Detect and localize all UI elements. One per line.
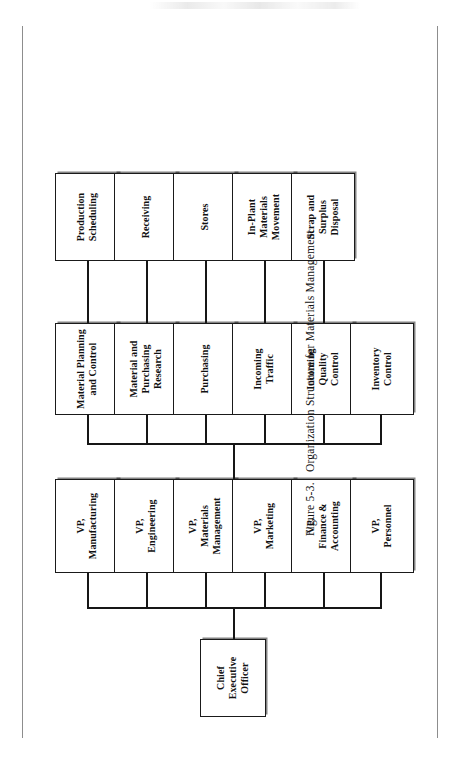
connector-in-plant-movement [264, 261, 266, 323]
node-label-line: Movement [270, 193, 282, 239]
node-stores[interactable]: Stores [173, 173, 237, 261]
connector-inventory-control [380, 415, 382, 445]
node-label-line: Accounting [329, 501, 341, 551]
node-vp-engineering[interactable]: VP, Engineering [114, 479, 178, 573]
node-material-and-purchasing-research[interactable]: Material and Purchasing Research [114, 323, 178, 415]
node-label-line: Manufacturing [87, 492, 99, 558]
connector-receiving [146, 261, 148, 323]
connector-purchasing [205, 415, 207, 445]
figure-number: Figure 5-3. [304, 482, 316, 536]
connector-production-scheduling [87, 261, 89, 323]
node-in-plant-materials-movement[interactable]: In-Plant Materials Movement [232, 173, 296, 261]
node-label-line: Engineering [146, 499, 158, 552]
node-label-line: Incoming [251, 348, 263, 389]
node-production-scheduling[interactable]: Production Scheduling [55, 173, 119, 261]
node-label-line: Receiving [139, 195, 151, 238]
connector-material-planning [87, 415, 89, 445]
connector-vp-trunk [87, 607, 381, 609]
connector-vp-personnel [380, 573, 382, 609]
connector-ceo-stub [233, 607, 235, 639]
node-label-line: Executive [226, 656, 238, 699]
node-material-planning-and-control[interactable]: Material Planning and Control [55, 323, 119, 415]
node-scrap-and-surplus-disposal[interactable]: Scrap and Surplus Disposal [291, 173, 355, 261]
node-label-line: Stores [198, 203, 210, 230]
node-incoming-traffic[interactable]: Incoming Traffic [232, 323, 296, 415]
scan-artifact-header [150, 2, 360, 9]
node-label-line: VP, [74, 492, 86, 558]
node-label-line: Control [329, 348, 341, 389]
node-label-line: Chief [214, 656, 226, 699]
node-label-line: VP, [186, 497, 198, 554]
node-label-line: In-Plant [245, 193, 257, 239]
node-label-line: VP, [369, 504, 381, 547]
node-vp-manufacturing[interactable]: VP, Manufacturing [55, 479, 119, 573]
node-label-line: Personnel [382, 504, 394, 547]
node-label-line: Control [382, 347, 394, 390]
node-incoming-quality-control[interactable]: Incoming Quality Control [291, 323, 355, 415]
figure-caption: Figure 5-3. Organization Structure for M… [304, 229, 316, 535]
node-purchasing[interactable]: Purchasing [173, 323, 237, 415]
figure-title: Organization Structure for Materials Man… [304, 229, 316, 471]
node-label-line: Production [74, 192, 86, 241]
connector-level3-trunk [87, 443, 381, 445]
node-label-line: VP, [251, 502, 263, 548]
node-label-line: Marketing [264, 502, 276, 548]
node-label-line: Materials [198, 497, 210, 554]
connector-materials-stub [233, 443, 235, 479]
node-vp-marketing[interactable]: VP, Marketing [232, 479, 296, 573]
node-label-line: Scheduling [87, 192, 99, 241]
connector-material-research [146, 415, 148, 445]
node-label-line: Purchasing [198, 344, 210, 393]
connector-incoming-traffic [264, 415, 266, 445]
node-vp-finance-accounting[interactable]: VP, Finance & Accounting [291, 479, 355, 573]
node-label-line: Materials [257, 193, 269, 239]
node-label-line: Research [152, 340, 164, 397]
connector-vp-marketing [264, 573, 266, 609]
node-label-line: Purchasing [139, 340, 151, 397]
node-chief-executive-officer[interactable]: Chief Executive Officer [200, 639, 266, 717]
node-label-line: Quality [316, 348, 328, 389]
page-edge-rule-right [437, 26, 438, 738]
connector-vp-finance [323, 573, 325, 609]
connector-stores [205, 261, 207, 323]
node-label-line: Finance & [316, 501, 328, 551]
page-edge-rule-left [22, 26, 23, 738]
node-label-line: Material Planning [74, 329, 86, 409]
connector-scrap-surplus [323, 261, 325, 323]
node-label-line: Officer [239, 656, 251, 699]
node-label-line: Surplus [316, 194, 328, 239]
connector-vp-manufacturing [87, 573, 89, 609]
node-label-line: and Control [87, 329, 99, 409]
node-label-line: Inventory [369, 347, 381, 390]
node-label-line: Traffic [264, 348, 276, 389]
organization-chart: Chief Executive Officer VP, Manufacturin… [39, 27, 429, 739]
connector-incoming-quality [323, 415, 325, 445]
node-label-line: Material and [127, 340, 139, 397]
node-vp-materials-management[interactable]: VP, Materials Management [173, 479, 237, 573]
node-receiving[interactable]: Receiving [114, 173, 178, 261]
connector-vp-materials [205, 573, 207, 609]
node-vp-personnel[interactable]: VP, Personnel [350, 479, 414, 573]
connector-vp-engineering [146, 573, 148, 609]
node-inventory-control[interactable]: Inventory Control [350, 323, 414, 415]
node-label-line: Management [211, 497, 223, 554]
node-label-line: Disposal [329, 194, 341, 239]
node-label-line: VP, [133, 499, 145, 552]
